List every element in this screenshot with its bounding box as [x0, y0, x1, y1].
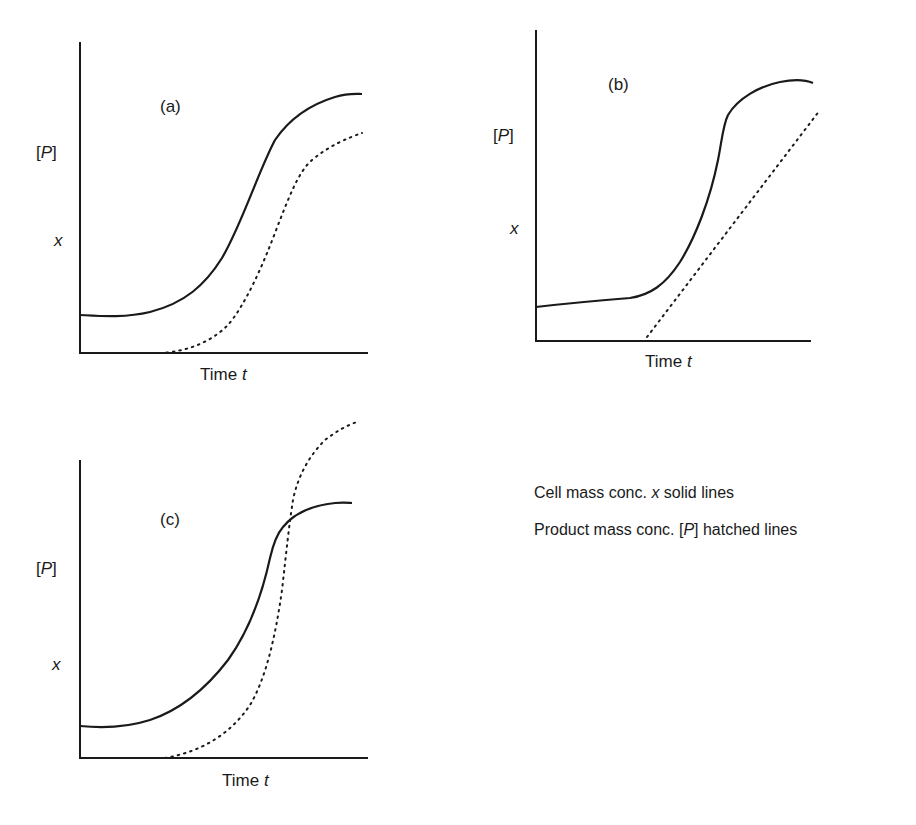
legend-cell-mass: Cell mass conc. x solid lines	[534, 485, 734, 501]
product-symbol: P	[498, 126, 509, 145]
panel-a	[79, 42, 368, 354]
panel-b-ylabel-product: [P]	[493, 127, 514, 144]
legend-text: ] hatched lines	[694, 521, 797, 538]
panel-a-tag: (a)	[160, 98, 181, 115]
panel-a-ylabel-cell: x	[54, 232, 63, 249]
bracket-close: ]	[509, 126, 514, 145]
legend-text: Product mass conc. [	[534, 521, 683, 538]
panel-c-xlabel: Time t	[222, 772, 269, 789]
panel-b-xlabel: Time t	[645, 353, 692, 370]
panel-a-xlabel: Time t	[200, 366, 247, 383]
xlabel-text: Time	[200, 365, 242, 384]
legend-text: solid lines	[659, 484, 734, 501]
panel-a-ylabel-product: [P]	[36, 144, 57, 161]
panel-b	[535, 30, 820, 342]
panel-b-ylabel-cell: x	[510, 220, 519, 237]
xlabel-var: t	[242, 365, 247, 384]
panel-c-ylabel-cell: x	[52, 656, 61, 673]
product-symbol: P	[41, 559, 52, 578]
legend-text: Cell mass conc.	[534, 484, 651, 501]
bracket-close: ]	[52, 559, 57, 578]
xlabel-var: t	[687, 352, 692, 371]
panel-c-cell-mass-curve	[80, 503, 352, 728]
legend-var: P	[683, 521, 694, 538]
figure-canvas	[0, 0, 916, 825]
panel-b-tag: (b)	[608, 76, 629, 93]
panel-b-cell-mass-curve	[536, 80, 813, 307]
panel-a-product-curve	[160, 133, 362, 353]
bracket-close: ]	[52, 143, 57, 162]
legend-product-mass: Product mass conc. [P] hatched lines	[534, 522, 797, 538]
panel-c-tag: (c)	[160, 511, 180, 528]
xlabel-var: t	[264, 771, 269, 790]
panel-a-cell-mass-curve	[80, 94, 362, 316]
panel-b-product-line	[647, 110, 820, 337]
product-symbol: P	[41, 143, 52, 162]
panel-c	[79, 422, 368, 759]
xlabel-text: Time	[645, 352, 687, 371]
xlabel-text: Time	[222, 771, 264, 790]
panel-c-ylabel-product: [P]	[36, 560, 57, 577]
